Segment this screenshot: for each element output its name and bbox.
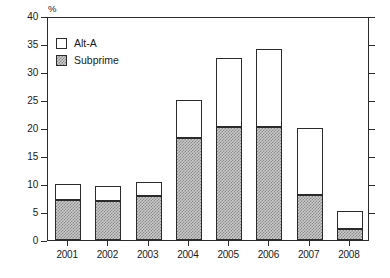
y-tick-label-5: 5 — [14, 208, 38, 218]
x-tick-mark-2006 — [268, 241, 269, 246]
bar-segment-subprime-2002[interactable] — [95, 201, 121, 240]
legend-label-alt-a: Alt-A — [74, 38, 97, 49]
bar-segment-subprime-2005[interactable] — [216, 127, 242, 240]
bar-segment-alta-2001[interactable] — [55, 184, 81, 200]
chart-legend: Alt-ASubprime — [56, 36, 119, 70]
bar-segment-subprime-2001[interactable] — [55, 200, 81, 240]
y-axis-unit-label: % — [48, 3, 56, 14]
y-tick-label-0: 0 — [14, 236, 38, 246]
x-tick-label-2001: 2001 — [45, 249, 89, 260]
x-tick-label-2003: 2003 — [126, 249, 170, 260]
y-tick-mark-right-40 — [369, 17, 375, 18]
y-tick-mark-right-20 — [369, 129, 375, 130]
bar-segment-alta-2006[interactable] — [256, 49, 282, 126]
bar-segment-alta-2005[interactable] — [216, 58, 242, 127]
y-tick-label-30: 30 — [14, 68, 38, 78]
bar-segment-alta-2004[interactable] — [176, 100, 202, 137]
y-tick-label-35: 35 — [14, 40, 38, 50]
legend-item-subprime[interactable]: Subprime — [56, 53, 119, 68]
y-tick-mark-right-35 — [369, 45, 375, 46]
x-tick-label-2006: 2006 — [246, 249, 290, 260]
y-tick-mark-right-15 — [369, 157, 375, 158]
bar-group-2005[interactable] — [216, 16, 242, 240]
x-tick-mark-2003 — [148, 241, 149, 246]
x-tick-label-2005: 2005 — [206, 249, 250, 260]
bar-segment-subprime-2008[interactable] — [337, 229, 363, 240]
y-tick-label-40: 40 — [14, 12, 38, 22]
x-tick-label-2007: 2007 — [287, 249, 331, 260]
y-tick-mark-right-5 — [369, 213, 375, 214]
bar-segment-alta-2007[interactable] — [297, 128, 323, 195]
y-tick-label-15: 15 — [14, 152, 38, 162]
bar-group-2008[interactable] — [337, 16, 363, 240]
y-tick-mark-0 — [41, 241, 47, 242]
y-tick-label-10: 10 — [14, 180, 38, 190]
x-tick-mark-2007 — [309, 241, 310, 246]
bar-group-2003[interactable] — [136, 16, 162, 240]
bar-segment-alta-2003[interactable] — [136, 182, 162, 196]
x-tick-mark-2004 — [188, 241, 189, 246]
bar-segment-subprime-2006[interactable] — [256, 127, 282, 240]
legend-item-alt-a[interactable]: Alt-A — [56, 36, 119, 51]
x-tick-label-2008: 2008 — [327, 249, 371, 260]
y-tick-mark-right-30 — [369, 73, 375, 74]
y-tick-mark-right-10 — [369, 185, 375, 186]
bar-segment-alta-2002[interactable] — [95, 186, 121, 201]
bar-segment-alta-2008[interactable] — [337, 211, 363, 229]
stacked-bar-chart: % 0510152025303540 200120022003200420052… — [0, 0, 390, 278]
y-tick-label-20: 20 — [14, 124, 38, 134]
legend-swatch-subprime-icon — [56, 55, 67, 66]
x-tick-label-2004: 2004 — [166, 249, 210, 260]
legend-label-subprime: Subprime — [74, 55, 119, 66]
bar-group-2006[interactable] — [256, 16, 282, 240]
y-tick-label-25: 25 — [14, 96, 38, 106]
bar-segment-subprime-2003[interactable] — [136, 196, 162, 240]
x-tick-mark-2005 — [228, 241, 229, 246]
y-tick-mark-right-25 — [369, 101, 375, 102]
x-tick-mark-2002 — [107, 241, 108, 246]
legend-swatch-alt-a-icon — [56, 38, 67, 49]
x-tick-mark-2008 — [349, 241, 350, 246]
bar-group-2007[interactable] — [297, 16, 323, 240]
x-tick-mark-2001 — [67, 241, 68, 246]
bar-group-2004[interactable] — [176, 16, 202, 240]
x-tick-label-2002: 2002 — [85, 249, 129, 260]
bar-segment-subprime-2007[interactable] — [297, 195, 323, 240]
bar-segment-subprime-2004[interactable] — [176, 138, 202, 240]
